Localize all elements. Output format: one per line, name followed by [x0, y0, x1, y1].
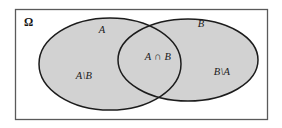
b-minus-a-label: B\A: [214, 66, 231, 77]
universe-label: Ω: [24, 16, 33, 28]
venn-diagram-canvas: Ω A B A ∩ B A\B B\A: [0, 0, 282, 128]
venn-diagram-figure: Ω A B A ∩ B A\B B\A: [0, 0, 282, 128]
set-a-label: A: [98, 24, 106, 35]
intersection-label: A ∩ B: [144, 51, 172, 62]
a-minus-b-label: A\B: [75, 70, 93, 81]
set-b-label: B: [198, 18, 205, 29]
